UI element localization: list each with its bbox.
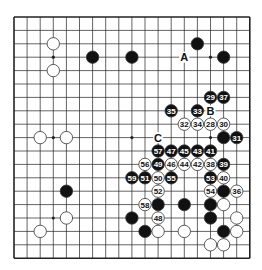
stone-circle bbox=[191, 38, 203, 50]
black-stone-47: 47 bbox=[165, 145, 177, 157]
stone-circle bbox=[217, 225, 229, 237]
stone-circle bbox=[139, 225, 151, 237]
white-stone-34: 34 bbox=[191, 118, 203, 130]
black-stone-49: 49 bbox=[152, 158, 164, 170]
white-stone-36: 36 bbox=[231, 185, 243, 197]
move-number: 49 bbox=[154, 160, 163, 169]
star-point bbox=[130, 136, 133, 139]
white-stone bbox=[231, 225, 243, 237]
white-stone bbox=[231, 212, 243, 224]
white-stone-56: 56 bbox=[139, 158, 151, 170]
black-stone-35: 35 bbox=[165, 105, 177, 117]
move-number: 48 bbox=[154, 214, 163, 223]
move-number: 41 bbox=[206, 147, 215, 156]
stone-circle bbox=[126, 51, 138, 63]
black-stone bbox=[204, 212, 216, 224]
black-stone bbox=[86, 51, 98, 63]
white-stone bbox=[34, 131, 46, 143]
black-stone bbox=[204, 198, 216, 210]
stone-circle bbox=[204, 212, 216, 224]
black-stone-45: 45 bbox=[178, 145, 190, 157]
white-stone bbox=[60, 212, 72, 224]
move-number: 59 bbox=[127, 174, 136, 183]
star-point bbox=[209, 136, 212, 139]
star-point bbox=[209, 56, 212, 59]
black-stone bbox=[60, 185, 72, 197]
stone-circle bbox=[178, 225, 190, 237]
move-number: 51 bbox=[141, 174, 150, 183]
move-number: 56 bbox=[141, 160, 150, 169]
black-stone-39: 39 bbox=[217, 158, 229, 170]
black-stone-43: 43 bbox=[191, 145, 203, 157]
stone-circle bbox=[217, 198, 229, 210]
stone-circle bbox=[34, 131, 46, 143]
star-point bbox=[52, 136, 55, 139]
move-number: 38 bbox=[206, 160, 215, 169]
black-stone-29: 29 bbox=[204, 91, 216, 103]
black-stone bbox=[178, 198, 190, 210]
star-point bbox=[52, 216, 55, 219]
white-stone-58: 58 bbox=[139, 198, 151, 210]
stone-circle bbox=[34, 225, 46, 237]
stone-circle bbox=[60, 212, 72, 224]
stone-circle bbox=[126, 212, 138, 224]
stone-circle bbox=[60, 131, 72, 143]
black-stone bbox=[152, 198, 164, 210]
white-stone-32: 32 bbox=[178, 118, 190, 130]
white-stone bbox=[47, 64, 59, 76]
white-stone-28: 28 bbox=[204, 118, 216, 130]
white-stone-40: 40 bbox=[217, 172, 229, 184]
move-number: 42 bbox=[193, 160, 202, 169]
black-stone bbox=[126, 51, 138, 63]
go-board-diagram: ABC 293735333234283031574745434156494644… bbox=[0, 0, 262, 270]
black-stone-37: 37 bbox=[217, 91, 229, 103]
stone-circle bbox=[217, 185, 229, 197]
stone-circle bbox=[204, 198, 216, 210]
move-number: 37 bbox=[219, 93, 228, 102]
white-stone-38: 38 bbox=[204, 158, 216, 170]
white-stone bbox=[217, 239, 229, 251]
move-number: 28 bbox=[206, 120, 215, 129]
white-stone bbox=[217, 198, 229, 210]
white-stone-50: 50 bbox=[152, 172, 164, 184]
black-stone-41: 41 bbox=[204, 145, 216, 157]
stone-circle bbox=[217, 239, 229, 251]
stone-circle bbox=[231, 225, 243, 237]
white-stone-46: 46 bbox=[165, 158, 177, 170]
move-number: 46 bbox=[167, 160, 176, 169]
black-stone-59: 59 bbox=[126, 172, 138, 184]
stone-circle bbox=[217, 131, 229, 143]
black-stone bbox=[191, 38, 203, 50]
black-stone bbox=[217, 225, 229, 237]
stone-circle bbox=[152, 198, 164, 210]
move-number: 32 bbox=[180, 120, 189, 129]
move-number: 29 bbox=[206, 93, 215, 102]
black-stone bbox=[217, 185, 229, 197]
stone-circle bbox=[217, 51, 229, 63]
black-stone-55: 55 bbox=[165, 172, 177, 184]
stone-circle bbox=[47, 38, 59, 50]
stones-layer: 2937353332342830315747454341564946444238… bbox=[34, 38, 243, 251]
stone-circle bbox=[152, 225, 164, 237]
move-number: 44 bbox=[180, 160, 189, 169]
black-stone bbox=[217, 51, 229, 63]
black-stone-33: 33 bbox=[191, 105, 203, 117]
move-number: 58 bbox=[141, 201, 150, 210]
stone-circle bbox=[178, 198, 190, 210]
marker-c: C bbox=[154, 132, 162, 144]
move-number: 57 bbox=[154, 147, 163, 156]
move-number: 35 bbox=[167, 107, 176, 116]
stone-circle bbox=[204, 239, 216, 251]
white-stone-30: 30 bbox=[217, 118, 229, 130]
black-stone bbox=[217, 131, 229, 143]
move-number: 31 bbox=[232, 134, 241, 143]
black-stone bbox=[126, 212, 138, 224]
white-stone bbox=[34, 225, 46, 237]
move-number: 43 bbox=[193, 147, 202, 156]
move-number: 50 bbox=[154, 174, 163, 183]
black-stone bbox=[139, 225, 151, 237]
white-stone-48: 48 bbox=[152, 212, 164, 224]
black-stone-31: 31 bbox=[231, 131, 243, 143]
white-stone-52: 52 bbox=[152, 185, 164, 197]
stone-circle bbox=[47, 64, 59, 76]
